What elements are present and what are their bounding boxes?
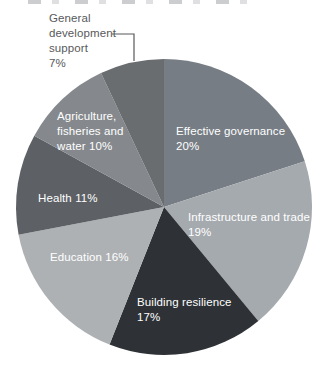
slice-label-education: Education 16% bbox=[50, 250, 129, 265]
pie-chart-figure: Effective governance 20% Infrastructure … bbox=[0, 0, 326, 383]
slice-label-agriculture-fisheries-water: Agriculture, fisheries and water 10% bbox=[57, 109, 124, 154]
slice-label-building-resilience: Building resilience 17% bbox=[137, 295, 232, 325]
slice-label-health: Health 11% bbox=[38, 191, 98, 206]
slice-label-effective-governance: Effective governance 20% bbox=[176, 124, 285, 154]
slice-label-general-development-support: General development support 7% bbox=[49, 11, 116, 71]
slice-label-infrastructure-and-trade: Infrastructure and trade 19% bbox=[188, 210, 310, 240]
